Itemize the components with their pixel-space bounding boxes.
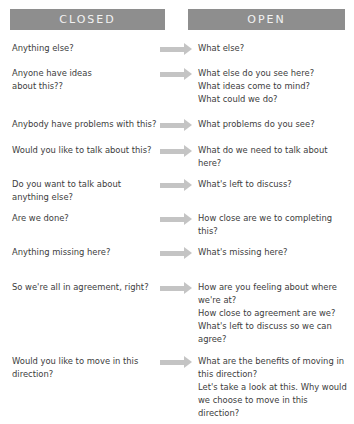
arrow-right-icon (160, 119, 194, 131)
closed-question: Would you like to talk about this? (12, 144, 172, 157)
open-question-line: Let's take a look at this. Why would we … (198, 381, 348, 420)
closed-question: Are we done? (12, 212, 162, 225)
open-question-line: What's left to discuss? (198, 178, 348, 191)
open-question: What are the benefits of moving in this … (198, 355, 348, 420)
open-question-line: How close are we to completing this? (198, 212, 348, 238)
arrow-right-icon (160, 282, 194, 294)
open-question: How close are we to completing this? (198, 212, 348, 238)
closed-vs-open-questions-page: CLOSED OPEN Anything else? What else? An… (0, 0, 354, 424)
open-question: What's left to discuss? (198, 178, 348, 191)
open-question: How are you feeling about where we're at… (198, 281, 348, 346)
open-question-line: What are the benefits of moving in this … (198, 355, 348, 381)
open-question-line: What else do you see here? (198, 67, 348, 80)
closed-question: Anything else? (12, 42, 162, 55)
arrow-right-icon (160, 213, 194, 225)
closed-column-header: CLOSED (10, 9, 165, 30)
open-question: What's missing here? (198, 246, 348, 259)
open-question-line: What's left to discuss so we can agree? (198, 320, 348, 346)
arrow-right-icon (160, 356, 194, 368)
open-question-line: How close to agreement are we? (198, 307, 348, 320)
open-question-line: What ideas come to mind? (198, 80, 348, 93)
closed-question: Do you want to talk about anything else? (12, 178, 127, 204)
closed-question: Anyone have ideas about this?? (12, 67, 107, 93)
arrow-right-icon (160, 145, 194, 157)
open-question: What do we need to talk about here? (198, 144, 348, 170)
open-question: What else? (198, 42, 348, 55)
closed-question: Anybody have problems with this? (12, 118, 172, 131)
closed-question: Would you like to move in this direction… (12, 355, 142, 381)
arrow-right-icon (160, 43, 194, 55)
arrow-right-icon (160, 179, 194, 191)
open-question: What else do you see here? What ideas co… (198, 67, 348, 106)
open-question-line: What problems do you see? (198, 118, 348, 131)
closed-question: So we're all in agreement, right? (12, 281, 172, 294)
open-question-line: What else? (198, 42, 348, 55)
closed-question: Anything missing here? (12, 246, 162, 259)
open-question-line: What do we need to talk about here? (198, 144, 348, 170)
open-question-line: What could we do? (198, 93, 348, 106)
open-column-header: OPEN (188, 9, 345, 30)
arrow-right-icon (160, 68, 194, 80)
open-question-line: What's missing here? (198, 246, 348, 259)
arrow-right-icon (160, 247, 194, 259)
open-question: What problems do you see? (198, 118, 348, 131)
open-question-line: How are you feeling about where we're at… (198, 281, 348, 307)
